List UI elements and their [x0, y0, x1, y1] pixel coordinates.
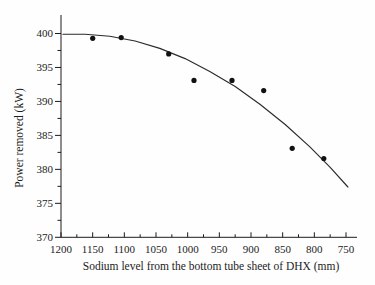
x-tick-label: 1150: [82, 243, 104, 255]
x-tick-label: 800: [306, 243, 323, 255]
data-point: [321, 156, 326, 161]
y-tick-label: 375: [37, 197, 54, 209]
data-point: [90, 36, 95, 41]
fit-curve: [63, 34, 348, 187]
y-tick-label: 370: [37, 231, 54, 243]
data-point: [119, 35, 124, 40]
x-tick-label: 850: [274, 243, 291, 255]
y-tick-label: 395: [37, 61, 54, 73]
x-tick-label: 1100: [114, 243, 136, 255]
x-tick-label: 950: [211, 243, 228, 255]
x-tick-label: 1200: [50, 243, 73, 255]
y-axis-title: Power removed (kW): [13, 88, 26, 188]
data-point: [290, 146, 295, 151]
y-tick-label: 390: [37, 95, 54, 107]
x-tick-label: 1000: [177, 243, 200, 255]
x-axis-title: Sodium level from the bottom tube sheet …: [83, 260, 340, 273]
data-point: [229, 78, 234, 83]
data-point: [191, 78, 196, 83]
x-tick-label: 900: [243, 243, 260, 255]
data-point: [166, 51, 171, 56]
y-tick-label: 385: [37, 129, 54, 141]
chart-figure: 1200115011001050100095090085080075037037…: [0, 0, 375, 285]
y-tick-label: 400: [37, 27, 54, 39]
scatter-plot: 1200115011001050100095090085080075037037…: [0, 0, 375, 285]
x-tick-label: 750: [338, 243, 355, 255]
x-tick-label: 1050: [145, 243, 168, 255]
y-tick-label: 380: [37, 163, 54, 175]
data-point: [261, 88, 266, 93]
